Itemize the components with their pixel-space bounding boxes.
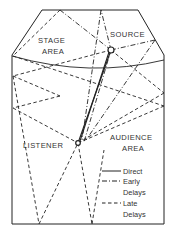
legend-early-label-2: Delays (123, 188, 146, 197)
listener-marker (76, 141, 81, 146)
audience-label-2: AREA (122, 144, 145, 153)
source-label: SOURCE (110, 30, 145, 39)
legend-early-label-1: Early (123, 177, 140, 186)
legend: Direct Early Delays Late Delays (102, 167, 146, 219)
acoustic-reflection-diagram: STAGE AREA SOURCE LISTENER AUDIENCE AREA… (0, 0, 173, 237)
direct-paths (78, 50, 111, 143)
legend-direct-label: Direct (123, 167, 142, 176)
legend-late-label-2: Delays (123, 210, 146, 219)
legend-late-label-1: Late (123, 199, 137, 208)
audience-label-1: AUDIENCE (110, 133, 152, 142)
stage-label-2: AREA (42, 47, 65, 56)
stage-label-1: STAGE (38, 36, 65, 45)
stage-boundary (12, 56, 164, 68)
listener-label: LISTENER (23, 141, 63, 150)
source-marker (108, 47, 114, 53)
